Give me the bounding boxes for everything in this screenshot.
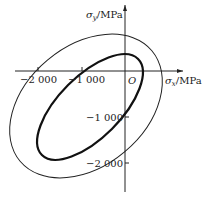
x-axis-arrow-icon (177, 69, 183, 73)
stress-ellipse-chart: σy/MPa σx/MPa O −2 000 −1 000 −1 000 −2 … (0, 0, 212, 204)
x-axis-label: σx/MPa (165, 75, 202, 88)
y-axis-label: σy/MPa (86, 9, 123, 22)
y-tick-label: −1 000 (86, 112, 123, 123)
y-tick-label: −2 000 (86, 158, 123, 169)
origin-label: O (128, 75, 136, 86)
y-axis-arrow-icon (123, 5, 127, 11)
x-tick-label: −2 000 (20, 74, 57, 85)
inner-ellipse (20, 37, 160, 177)
outer-ellipse (0, 5, 190, 204)
x-tick-label: −1 000 (68, 74, 105, 85)
